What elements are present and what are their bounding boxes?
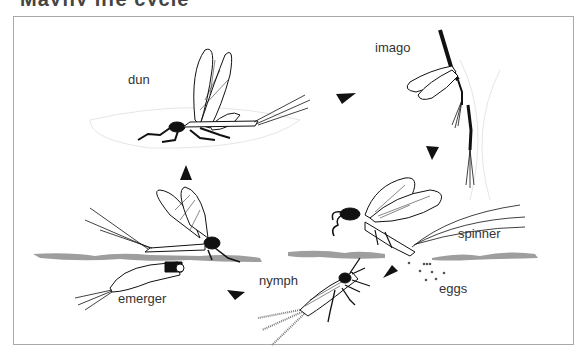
life-cycle-illustration xyxy=(0,0,588,356)
dun-mayfly-icon xyxy=(138,49,310,142)
label-nymph: nymph xyxy=(259,273,298,288)
label-dun: dun xyxy=(128,72,150,87)
label-imago: imago xyxy=(375,40,410,55)
arrow-eggs-to-nymph-icon xyxy=(383,265,398,278)
arrow-nymph-to-emerger-icon xyxy=(227,290,245,300)
imago-mayfly-icon xyxy=(407,30,474,188)
label-spinner: spinner xyxy=(458,226,501,241)
nymph-icon xyxy=(258,258,370,345)
spinner-mayfly-icon xyxy=(332,178,525,256)
arrow-dun-to-imago-icon xyxy=(336,93,356,104)
label-emerger: emerger xyxy=(118,291,166,306)
label-eggs: eggs xyxy=(439,281,467,296)
arrow-imago-to-spinner-icon xyxy=(426,146,439,160)
water-surface xyxy=(33,251,538,262)
arrow-emerger-to-dun-icon xyxy=(180,165,192,180)
eggs-icon xyxy=(408,262,446,282)
